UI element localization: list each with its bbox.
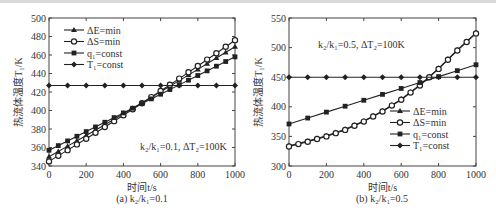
x-tick-label: 200 [79,169,94,180]
circle-marker [371,114,376,119]
diamond-marker [473,74,479,80]
circle-marker [214,51,219,56]
square-marker [233,54,238,59]
diamond-marker [65,83,71,89]
square-marker [75,134,80,139]
diamond-marker [417,74,423,80]
circle-marker [65,148,70,153]
y-tick-label: 340 [31,161,46,172]
diamond-marker [380,74,386,80]
square-marker [474,62,479,67]
diamond-marker [323,74,329,80]
square-marker [343,104,348,109]
y-tick-label: 420 [31,87,46,98]
diamond-marker [158,83,164,89]
diamond-marker [361,74,367,80]
diamond-marker [213,83,219,89]
circle-marker [436,66,441,71]
diamond-marker [139,83,145,89]
circle-marker [223,44,228,49]
circle-marker [464,39,469,44]
square-marker [361,98,366,103]
circle-marker [205,57,210,62]
circle-marker [195,63,200,68]
square-marker [195,73,200,78]
square-marker [324,110,329,115]
y-tick-label: 400 [31,105,46,116]
x-tick-label: 400 [116,169,131,180]
annotation: k₂/k₁=0.1, ΔT₂=100K [140,141,228,152]
square-marker [186,78,191,83]
series-markers [47,54,238,152]
circle-marker [361,119,366,124]
circle-marker [102,124,107,129]
x-tick-label: 0 [287,169,292,180]
square-marker [47,148,52,153]
x-tick-label: 800 [431,169,446,180]
x-tick-label: 200 [319,169,334,180]
square-marker [158,92,163,97]
diamond-marker [232,83,238,89]
diamond-marker [342,74,348,80]
circle-marker [93,130,98,135]
square-marker [102,120,107,125]
circle-marker [352,123,357,128]
x-tick-label: 600 [153,169,168,180]
legend-label: q₁=const [87,48,122,59]
circle-marker [232,38,237,43]
square-marker [399,86,404,91]
circle-marker [177,76,182,81]
square-marker [418,80,423,85]
square-marker [130,106,135,111]
x-axis-label: 时间t/s [127,181,157,193]
series-markers [287,62,479,126]
square-marker [168,87,173,92]
diamond-marker [454,74,460,80]
square-marker [455,68,460,73]
diamond-marker [305,74,311,80]
square-marker [398,132,403,137]
square-marker [72,51,77,56]
y-tick-label: 300 [271,161,286,172]
square-marker [305,116,310,121]
chart-panel-b: 02004006008001000300350400450500550ΔE=mi… [252,13,486,206]
y-tick-label: 440 [31,68,46,79]
square-marker [205,68,210,73]
circle-marker [473,31,478,36]
y-tick-label: 360 [31,142,46,153]
square-marker [84,129,89,134]
circle-marker [399,97,404,102]
square-marker [287,122,292,127]
circle-marker [445,57,450,62]
square-marker [149,96,154,101]
x-tick-label: 600 [394,169,409,180]
diamond-marker [195,83,201,89]
x-axis-label: 时间t/s [368,181,398,193]
panel-caption: (a) k₂/k₁=0.1 [116,193,168,205]
diamond-marker [102,83,108,89]
square-marker [223,59,228,64]
square-marker [214,64,219,69]
y-tick-label: 500 [31,13,46,24]
circle-marker [84,136,89,141]
diamond-marker [46,83,52,89]
triangle-marker [46,154,52,159]
circle-marker [333,131,338,136]
diamond-marker [120,83,126,89]
y-tick-label: 500 [271,42,286,53]
legend-label: T₁=const [413,140,450,151]
y-tick-label: 480 [31,31,46,42]
square-marker [93,125,98,130]
y-tick-label: 350 [271,131,286,142]
legend-label: T₁=const [87,59,124,70]
y-tick-label: 460 [31,50,46,61]
diamond-marker [71,62,77,68]
x-tick-label: 400 [356,169,371,180]
legend-label: ΔS=min [87,36,120,47]
circle-marker [167,82,172,87]
square-marker [112,115,117,120]
chart-panel-a: 0200400600800100034036038040042044046048… [12,13,245,206]
circle-marker [343,127,348,132]
legend-label: ΔE=min [87,25,121,36]
square-marker [121,111,126,116]
